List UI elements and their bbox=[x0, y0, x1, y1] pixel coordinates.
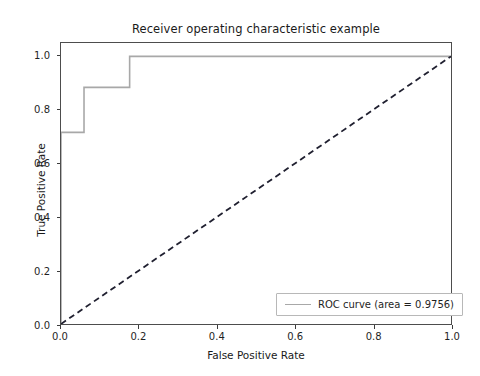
x-axis-label: False Positive Rate bbox=[60, 349, 452, 361]
y-tick-label: 0.8 bbox=[50, 104, 66, 115]
roc-chart-figure: Receiver operating characteristic exampl… bbox=[0, 0, 480, 376]
plot-area bbox=[60, 42, 452, 325]
x-tick-label: 0.4 bbox=[209, 331, 225, 342]
y-tick-label: 0.4 bbox=[50, 212, 66, 223]
chart-title: Receiver operating characteristic exampl… bbox=[60, 22, 452, 36]
chance-diagonal-line bbox=[61, 56, 451, 324]
x-tick-label: 0.6 bbox=[287, 331, 303, 342]
legend-entry-label: ROC curve (area = 0.9756) bbox=[318, 299, 454, 310]
y-tick-label: 0.6 bbox=[50, 158, 66, 169]
x-tick-label: 0.0 bbox=[52, 331, 68, 342]
y-tick-label: 0.0 bbox=[50, 320, 66, 331]
x-tick-mark bbox=[374, 325, 375, 329]
x-tick-label: 0.2 bbox=[130, 331, 146, 342]
x-tick-mark bbox=[138, 325, 139, 329]
y-tick-label: 1.0 bbox=[50, 50, 66, 61]
chart-legend: ROC curve (area = 0.9756) bbox=[276, 293, 463, 316]
legend-line-swatch bbox=[285, 304, 311, 305]
y-tick-label: 0.2 bbox=[50, 266, 66, 277]
x-tick-mark bbox=[452, 325, 453, 329]
x-tick-mark bbox=[217, 325, 218, 329]
x-tick-label: 1.0 bbox=[444, 331, 460, 342]
plot-canvas bbox=[61, 43, 451, 324]
x-tick-mark bbox=[295, 325, 296, 329]
x-tick-label: 0.8 bbox=[366, 331, 382, 342]
y-axis-label: True Positive Rate bbox=[35, 100, 47, 280]
